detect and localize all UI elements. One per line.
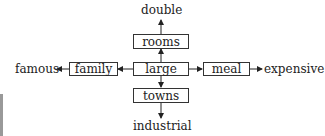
left-edge-line: [0, 94, 3, 136]
word-industrial: industrial: [133, 119, 192, 133]
node-rooms: rooms: [133, 34, 189, 49]
word-famous: famous: [15, 62, 59, 76]
node-meal: meal: [203, 62, 250, 76]
node-towns: towns: [133, 88, 189, 103]
word-double: double: [141, 3, 182, 17]
node-large: large: [133, 62, 189, 76]
word-expensive: expensive: [264, 62, 324, 76]
node-family: family: [69, 62, 118, 76]
